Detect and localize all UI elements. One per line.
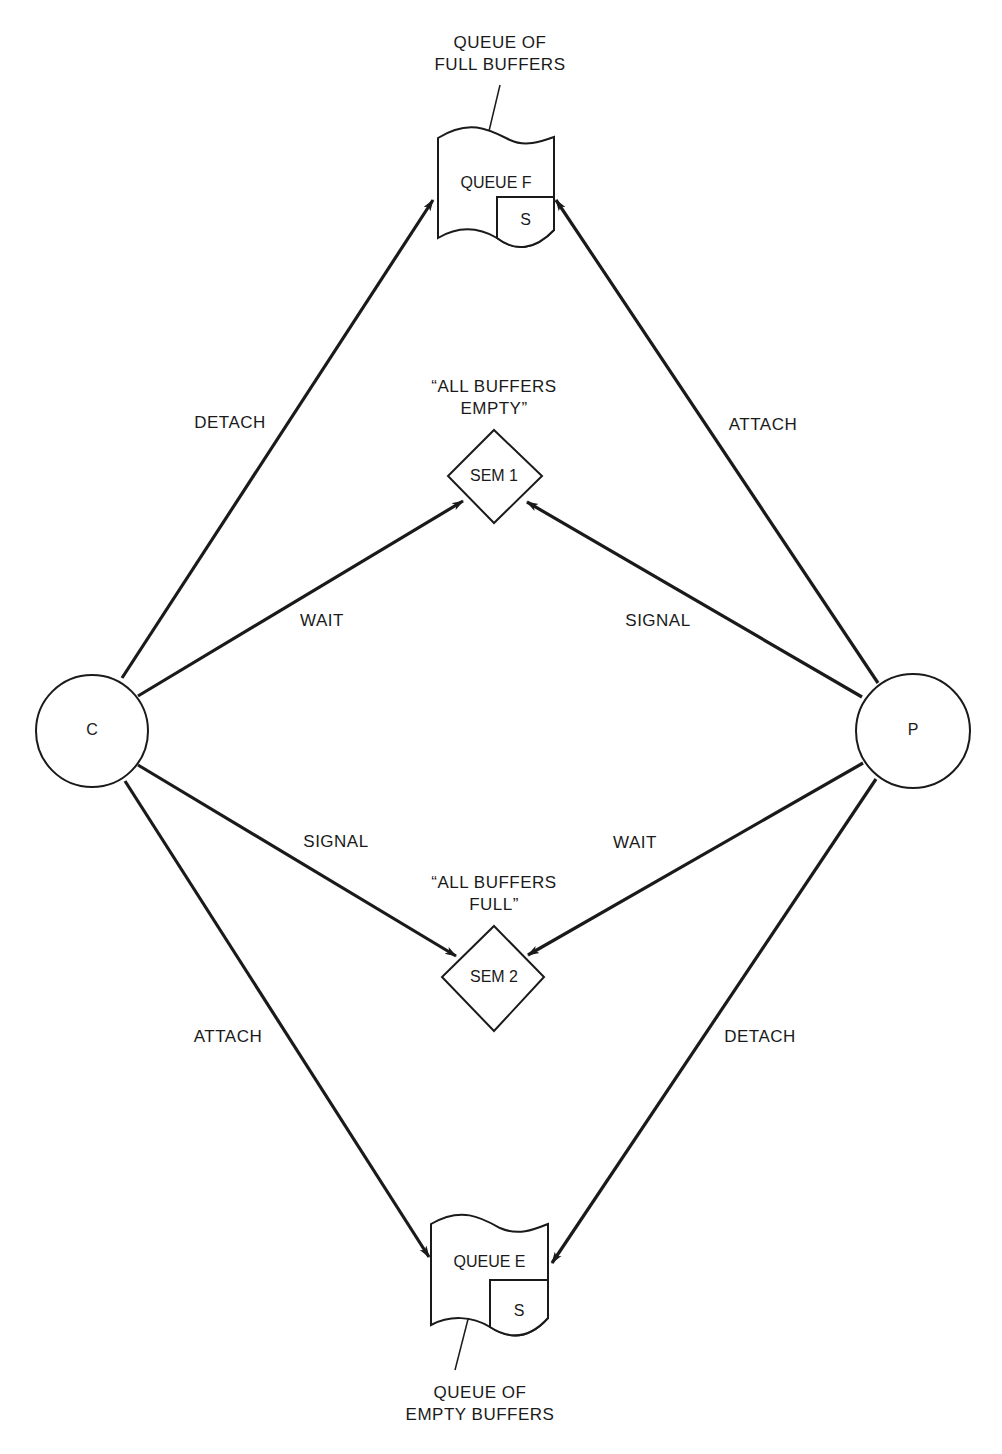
producer-label: P — [883, 721, 943, 739]
edge-label-c-queue-e: ATTACH — [178, 1026, 278, 1048]
edge-p-queue-f — [556, 200, 878, 683]
edge-label-p-sem2: WAIT — [595, 832, 675, 854]
queue-e-label: QUEUE E — [431, 1253, 548, 1271]
sem2-label: SEM 2 — [452, 968, 536, 986]
edge-c-queue-f — [122, 200, 433, 678]
edge-label-c-queue-f: DETACH — [180, 412, 280, 434]
queue-e-caption: QUEUE OF EMPTY BUFFERS — [380, 1382, 580, 1426]
edge-label-c-sem1: WAIT — [282, 610, 362, 632]
edge-c-sem2 — [138, 765, 456, 956]
edge-p-sem1 — [527, 502, 862, 697]
queue-f-caption: QUEUE OF FULL BUFFERS — [400, 32, 600, 76]
sem1-caption: “ALL BUFFERS EMPTY” — [394, 376, 594, 420]
queue-f-s-label: S — [497, 211, 554, 229]
edge-label-p-queue-e: DETACH — [710, 1026, 810, 1048]
edge-c-sem1 — [138, 501, 463, 696]
queue-e-s-label: S — [490, 1302, 548, 1320]
queue-f-label: QUEUE F — [438, 174, 554, 192]
edge-p-sem2 — [528, 763, 863, 955]
edge-label-c-sem2: SIGNAL — [286, 831, 386, 853]
sem1-label: SEM 1 — [454, 467, 534, 485]
edge-label-p-sem1: SIGNAL — [608, 610, 708, 632]
edge-label-p-queue-f: ATTACH — [713, 414, 813, 436]
consumer-label: C — [62, 721, 122, 739]
sem2-caption: “ALL BUFFERS FULL” — [394, 872, 594, 916]
